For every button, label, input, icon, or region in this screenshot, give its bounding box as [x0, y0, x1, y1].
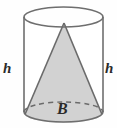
height-label-right: h	[105, 61, 113, 76]
base-area-label: B	[57, 101, 68, 117]
geometry-figure-canvas: h h B	[0, 0, 117, 128]
height-label-left: h	[3, 61, 11, 76]
